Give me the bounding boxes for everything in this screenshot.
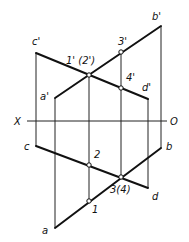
label-d: d	[152, 191, 159, 202]
projection-diagram: b' c' 3' 1' (2') 4' d' a' X O c b 2 3(4)…	[0, 0, 189, 242]
point-2	[87, 163, 91, 167]
label-1: 1	[92, 204, 98, 215]
point-4-prime	[119, 86, 123, 90]
label-a-prime: a'	[40, 91, 49, 102]
label-1-2-prime: 1' (2')	[66, 55, 95, 66]
label-3-4: 3(4)	[110, 184, 131, 195]
point-1-2-prime	[87, 73, 91, 77]
label-3-prime: 3'	[118, 36, 127, 47]
label-4-prime: 4'	[126, 72, 135, 83]
label-a: a	[42, 225, 48, 236]
axis-label-x: X	[13, 116, 22, 127]
line-c-d	[36, 146, 148, 188]
point-3-4	[119, 175, 123, 179]
label-b: b	[166, 141, 172, 152]
point-1	[87, 199, 91, 203]
label-c-prime: c'	[32, 36, 40, 47]
point-3-prime	[119, 50, 123, 54]
label-b-prime: b'	[152, 11, 161, 22]
label-d-prime: d'	[142, 82, 151, 93]
label-2: 2	[94, 149, 100, 160]
label-c: c	[24, 141, 30, 152]
axis-label-o: O	[170, 116, 178, 127]
